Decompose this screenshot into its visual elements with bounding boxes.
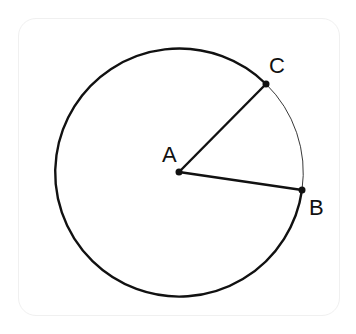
point-a [176, 169, 183, 176]
radius-ac [179, 84, 266, 172]
label-b: B [309, 195, 324, 220]
circle-diagram: A B C [0, 0, 356, 334]
label-a: A [162, 142, 177, 167]
radius-ab [179, 172, 302, 190]
point-b [299, 187, 306, 194]
label-c: C [269, 53, 285, 78]
minor-arc-bc [266, 84, 303, 190]
point-c [263, 81, 270, 88]
